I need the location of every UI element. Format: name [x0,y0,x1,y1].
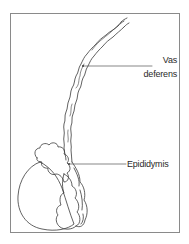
testis-shape [18,162,74,230]
vas-deferens-label-line1: Vas [163,56,177,65]
anatomy-drawing [0,0,189,244]
vas-deferens-top-end [118,18,129,27]
epididymis-leader-dot [68,163,70,165]
epididymis-tail-inner [74,168,83,224]
vas-deferens-right-edge [71,27,124,162]
vas-deferens-left-edge [64,26,118,160]
vas-deferens-lumen [68,22,121,142]
epididymis-label: Epididymis [127,160,169,169]
vas-deferens-label-line2: deferens [144,70,177,79]
vas-deferens-leader-dot [82,65,84,67]
